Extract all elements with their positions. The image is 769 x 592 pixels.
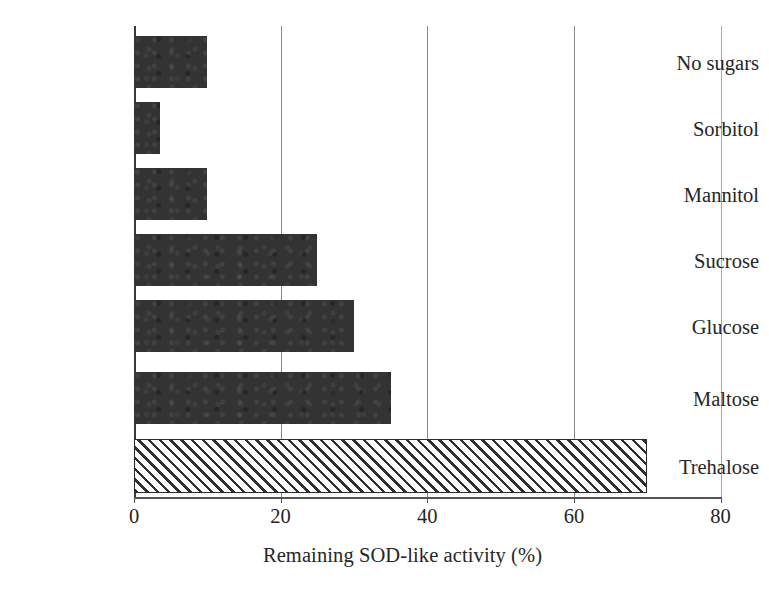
xtick-mark-80 <box>721 497 722 503</box>
bar-maltose <box>134 372 391 424</box>
category-label-sucrose: Sucrose <box>641 251 769 272</box>
xtick-label-80: 80 <box>691 505 751 528</box>
xtick-label-60: 60 <box>544 505 604 528</box>
bar-row-sorbitol <box>134 102 721 154</box>
category-label-mannitol: Mannitol <box>641 185 769 206</box>
bar-glucose <box>134 300 354 352</box>
bar-sucrose <box>134 234 317 286</box>
xtick-label-40: 40 <box>397 505 457 528</box>
xtick-mark-0 <box>134 497 135 503</box>
x-axis-title-text: Remaining SOD-like activity (%) <box>227 544 542 567</box>
xtick-mark-40 <box>427 497 428 503</box>
bar-mannitol <box>134 168 207 220</box>
category-label-trehalose: Trehalose <box>641 457 769 478</box>
bar-row-mannitol <box>134 168 721 220</box>
category-label-glucose: Glucose <box>641 317 769 338</box>
bar-chart-figure: No sugars Sorbitol Mannitol Sucrose Gluc… <box>0 0 769 592</box>
bar-row-maltose <box>134 372 721 424</box>
category-label-no-sugars: No sugars <box>641 53 769 74</box>
bar-row-trehalose <box>134 439 721 493</box>
bar-trehalose <box>134 439 647 493</box>
bar-row-sucrose <box>134 234 721 286</box>
xtick-mark-20 <box>281 497 282 503</box>
bar-row-glucose <box>134 300 721 352</box>
xtick-mark-60 <box>574 497 575 503</box>
bar-row-no-sugars <box>134 36 721 88</box>
category-label-maltose: Maltose <box>641 389 769 410</box>
category-label-sorbitol: Sorbitol <box>641 119 769 140</box>
x-axis-title: Remaining SOD-like activity (%) <box>0 544 769 567</box>
bar-no-sugars <box>134 36 207 88</box>
bar-sorbitol <box>134 102 160 154</box>
xtick-label-20: 20 <box>251 505 311 528</box>
xtick-label-0: 0 <box>104 505 164 528</box>
